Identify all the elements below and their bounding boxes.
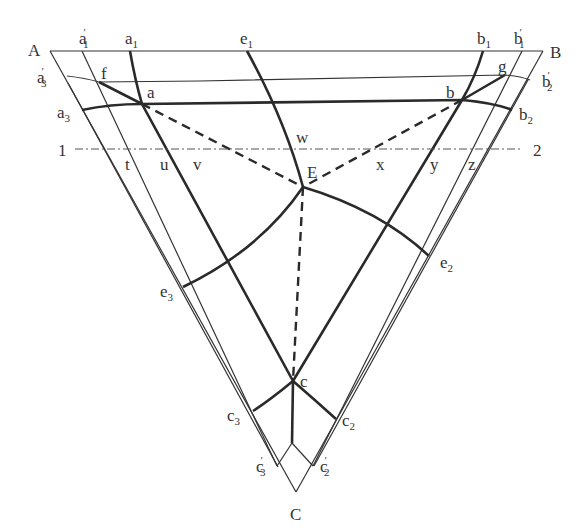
thick-lines — [82, 51, 512, 443]
vertex-B: B — [550, 43, 561, 62]
point-x: x — [376, 155, 385, 174]
point-t: t — [125, 155, 130, 174]
inner-parallel-lines — [67, 51, 530, 466]
section-label-2: 2 — [533, 141, 542, 160]
label-e2: e2 — [440, 253, 453, 274]
point-u: u — [160, 155, 169, 174]
label-b2: b2 — [519, 105, 533, 126]
point-c: c — [300, 372, 308, 391]
label-e3: e3 — [160, 282, 174, 303]
label-a1: a1 — [125, 29, 138, 50]
point-f: f — [101, 64, 107, 83]
outer-triangle — [50, 51, 543, 492]
vertex-A: A — [28, 41, 41, 60]
label-a3: a3 — [57, 103, 71, 124]
label-c3: c3 — [227, 406, 241, 427]
label-e1: e1 — [240, 29, 253, 50]
section-label-1: 1 — [58, 141, 67, 160]
label-b1-prime: b′1 — [514, 26, 524, 50]
point-a: a — [147, 83, 155, 102]
point-E: E — [307, 163, 317, 182]
point-y: y — [430, 155, 439, 174]
label-b2-prime: b′2 — [542, 69, 552, 93]
point-v: v — [193, 155, 202, 174]
label-c2: c2 — [342, 411, 355, 432]
point-b: b — [446, 83, 455, 102]
label-b1: b1 — [477, 29, 491, 50]
label-a1-prime: a′1 — [79, 26, 88, 50]
point-z: z — [468, 155, 476, 174]
label-a3-prime: a′3 — [37, 65, 47, 89]
label-c3-prime: c′3 — [256, 454, 266, 478]
point-w: w — [296, 128, 309, 147]
triangle-diagram: A B C a b c E f g t u v w x y z 1 2 a′1 … — [0, 0, 586, 531]
vertex-C: C — [290, 505, 301, 524]
label-c2-prime: c′2 — [320, 454, 329, 478]
point-g: g — [498, 57, 507, 76]
